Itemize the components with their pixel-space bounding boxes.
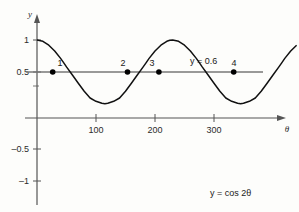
x-tick-label-100: 100 <box>88 125 103 135</box>
intersection-point-1[interactable] <box>50 69 56 75</box>
point-label-4: 4 <box>231 58 236 68</box>
x-axis-label: θ <box>285 124 290 134</box>
y-tick-label-minus-0-5: –0.5 <box>11 144 29 154</box>
point-label-1: 1 <box>57 58 62 68</box>
y-tick-label-minus-1: –1 <box>19 176 29 186</box>
point-label-2: 2 <box>120 58 125 68</box>
point-label-3: 3 <box>149 58 154 68</box>
x-axis-arrow-icon <box>277 115 286 121</box>
hline-annotation-label: y = 0.6 <box>190 56 217 66</box>
curve-annotation-label: y = cos 2θ <box>210 188 251 198</box>
x-tick-label-200: 200 <box>147 125 162 135</box>
intersection-point-2[interactable] <box>125 69 131 75</box>
y-tick-label-1: 1 <box>24 35 29 45</box>
y-axis-arrow-icon <box>34 14 40 23</box>
x-tick-label-300: 300 <box>206 125 221 135</box>
cosine-graph-figure: 1 0.5 –0.5 –1 100 200 300 y θ 1 2 3 4 y … <box>0 0 299 212</box>
intersection-point-3[interactable] <box>156 69 162 75</box>
intersection-point-4[interactable] <box>231 69 237 75</box>
y-axis-label: y <box>27 9 32 19</box>
